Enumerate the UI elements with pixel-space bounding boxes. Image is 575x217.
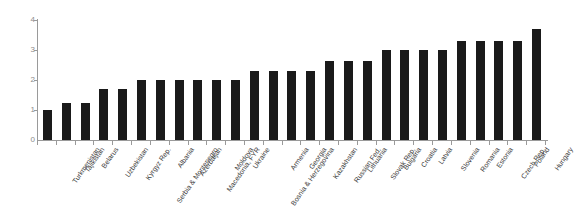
bar-slot — [490, 20, 509, 140]
bar-slot — [113, 20, 132, 140]
x-axis-tick — [339, 141, 358, 145]
bar-slot — [245, 20, 264, 140]
x-axis-tick — [189, 141, 208, 145]
y-axis-tick-label: 4 — [11, 14, 35, 25]
bar — [118, 89, 127, 140]
bar-slot — [38, 20, 57, 140]
x-axis-tick — [151, 141, 170, 145]
bar — [193, 80, 202, 140]
bar-slot — [377, 20, 396, 140]
bar-slot — [226, 20, 245, 140]
bar — [212, 80, 221, 140]
bar-slot — [94, 20, 113, 140]
bar — [382, 50, 391, 140]
y-axis-tick-label: 0 — [11, 134, 35, 145]
bar — [231, 80, 240, 140]
x-axis-tick — [471, 141, 490, 145]
x-axis-tick-mark — [545, 141, 546, 145]
x-axis-tick — [207, 141, 226, 145]
bar — [99, 89, 108, 140]
bar — [438, 50, 447, 140]
bar-slot — [76, 20, 95, 140]
bar — [250, 71, 259, 140]
bar-slot — [414, 20, 433, 140]
bar-slot — [189, 20, 208, 140]
x-axis-label-text: Hungary — [553, 146, 575, 172]
bar-slot — [132, 20, 151, 140]
bar-slot — [207, 20, 226, 140]
x-axis-tick — [490, 141, 509, 145]
x-axis-label-text: Armenia — [290, 146, 312, 172]
bar-slot — [339, 20, 358, 140]
bar — [287, 71, 296, 140]
x-axis-label-text: Latvia — [437, 146, 454, 166]
x-axis-tick — [301, 141, 320, 145]
x-axis-label-text: Albania — [176, 146, 196, 170]
bar — [419, 50, 428, 140]
x-axis-tick — [527, 141, 546, 145]
bar — [494, 41, 503, 140]
bar-slot — [301, 20, 320, 140]
bar-slot — [395, 20, 414, 140]
x-axis-tick — [358, 141, 377, 145]
bar-series — [38, 20, 546, 140]
y-axis-tick-label: 3 — [11, 44, 35, 55]
bar-slot — [527, 20, 546, 140]
x-axis-tick — [132, 141, 151, 145]
bar — [269, 71, 278, 140]
x-axis-tick — [452, 141, 471, 145]
x-axis-ticks — [38, 141, 546, 145]
bar-slot — [320, 20, 339, 140]
x-axis-tick — [508, 141, 527, 145]
bar — [532, 29, 541, 140]
x-axis-tick — [113, 141, 132, 145]
bar — [81, 103, 90, 141]
x-axis-tick — [94, 141, 113, 145]
bar — [325, 61, 334, 141]
x-axis-tick — [320, 141, 339, 145]
x-axis-tick — [377, 141, 396, 145]
x-axis-tick — [414, 141, 433, 145]
bar — [476, 41, 485, 140]
bar — [344, 61, 353, 141]
bar-slot — [283, 20, 302, 140]
bar — [513, 41, 522, 140]
bar — [43, 110, 52, 140]
bar — [175, 80, 184, 140]
bar — [306, 71, 315, 140]
bar-slot — [471, 20, 490, 140]
x-axis-tick — [283, 141, 302, 145]
y-axis-tick-label: 1 — [11, 104, 35, 115]
x-axis-tick — [170, 141, 189, 145]
bar — [156, 80, 165, 140]
bar-slot — [433, 20, 452, 140]
bar-slot — [358, 20, 377, 140]
x-axis-tick — [76, 141, 95, 145]
bar — [400, 50, 409, 140]
bar — [457, 41, 466, 140]
x-axis-tick — [226, 141, 245, 145]
x-axis-tick — [264, 141, 283, 145]
bar — [62, 103, 71, 141]
bar-slot — [508, 20, 527, 140]
x-axis-tick — [57, 141, 76, 145]
x-axis-tick — [433, 141, 452, 145]
bar-slot — [452, 20, 471, 140]
x-axis-tick — [38, 141, 57, 145]
bar — [137, 80, 146, 140]
bar-slot — [264, 20, 283, 140]
y-axis-tick-label: 2 — [11, 74, 35, 85]
x-axis-tick — [245, 141, 264, 145]
bar-slot — [57, 20, 76, 140]
x-axis-tick — [395, 141, 414, 145]
bar-slot — [151, 20, 170, 140]
x-axis-labels: TurkmenistanTajikistanBelarusUzbekistanK… — [38, 146, 546, 217]
bar-slot — [170, 20, 189, 140]
bar — [363, 61, 372, 141]
